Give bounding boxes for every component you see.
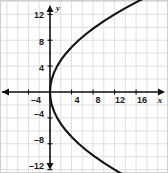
x-tick-label-4: 4 <box>74 95 79 105</box>
y-tick-label-8: 8 <box>39 37 44 47</box>
coordinate-graph-figure: –4 4 8 12 16 12 8 4 –4 –8 –12 y x <box>0 0 168 173</box>
y-tick-label--12: –12 <box>29 161 44 171</box>
y-tick-label--4: –4 <box>34 109 44 119</box>
x-tick-label-8: 8 <box>95 95 100 105</box>
y-tick-label--8: –8 <box>34 135 44 145</box>
graph-canvas: –4 4 8 12 16 12 8 4 –4 –8 –12 y x <box>0 0 168 173</box>
y-tick-label-4: 4 <box>39 63 44 73</box>
x-axis-name: x <box>157 95 163 105</box>
x-tick-label--4: –4 <box>31 95 41 105</box>
y-tick-label-12: 12 <box>34 10 44 20</box>
x-tick-label-16: 16 <box>137 95 147 105</box>
x-tick-label-12: 12 <box>115 95 125 105</box>
